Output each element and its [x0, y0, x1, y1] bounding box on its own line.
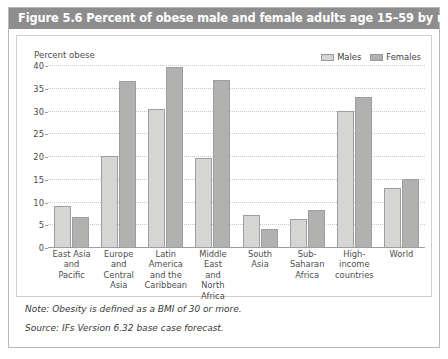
- bar-females: [119, 81, 136, 247]
- bar-males: [101, 156, 118, 247]
- bar-females: [72, 217, 89, 247]
- y-tick-label: 25: [33, 129, 44, 139]
- bar-group: [48, 65, 95, 247]
- y-tick-label: 0: [39, 243, 44, 253]
- y-tick-label: 40: [33, 61, 44, 71]
- x-axis-label: LatinAmericaand theCaribbean: [142, 249, 189, 301]
- legend-item-males: Males: [321, 52, 361, 62]
- bar-group: [284, 65, 331, 247]
- y-tick-label: 20: [33, 152, 44, 162]
- x-axis-label: High-incomecountries: [331, 249, 378, 301]
- bar-females: [261, 229, 278, 247]
- footnotes: Note: Obesity is defined as a BMI of 30 …: [25, 304, 425, 342]
- figure-title-bar: Figure 5.6 Percent of obese male and fem…: [9, 8, 439, 29]
- bar-females: [355, 97, 372, 247]
- bar-females: [308, 210, 325, 247]
- bar-males: [54, 206, 71, 247]
- bar-females: [166, 67, 183, 247]
- figure-source: Source: IFs Version 6.32 base case forec…: [25, 323, 425, 333]
- page-title: Figure 5.6 Percent of obese male and fem…: [18, 11, 448, 25]
- x-axis-label: Middle EastandNorth Africa: [189, 249, 236, 301]
- legend-item-females: Females: [370, 52, 421, 62]
- x-axis-label: EuropeandCentralAsia: [95, 249, 142, 301]
- x-axis-label: Sub-SaharanAfrica: [284, 249, 331, 301]
- legend-label-males: Males: [337, 52, 361, 62]
- bar-males: [195, 158, 212, 247]
- legend-label-females: Females: [386, 52, 421, 62]
- bar-group: [189, 65, 236, 247]
- y-tick-label: 30: [33, 107, 44, 117]
- x-axis-label: SouthAsia: [237, 249, 284, 301]
- y-tick-label: 35: [33, 84, 44, 94]
- bar-group: [95, 65, 142, 247]
- bar-females: [213, 80, 230, 247]
- chart-legend: Males Females: [321, 52, 421, 62]
- bar-females: [402, 179, 419, 247]
- x-axis-label: World: [378, 249, 425, 301]
- bar-males: [337, 111, 354, 248]
- bar-group: [142, 65, 189, 247]
- chart-panel: Percent obese Males Females 051015202530…: [16, 35, 432, 297]
- axis-baseline: 0: [48, 247, 425, 248]
- x-axis-label: East AsiaandPacific: [48, 249, 95, 301]
- figure-note: Note: Obesity is defined as a BMI of 30 …: [25, 304, 425, 314]
- legend-swatch-males-icon: [321, 54, 334, 61]
- bar-group: [331, 65, 378, 247]
- bar-males: [243, 215, 260, 247]
- legend-swatch-females-icon: [370, 54, 383, 61]
- bar-males: [384, 188, 401, 247]
- y-tick-label: 15: [33, 175, 44, 185]
- bar-group: [378, 65, 425, 247]
- plot-area: 0510152025303540: [48, 65, 425, 247]
- y-axis-title: Percent obese: [34, 50, 95, 60]
- figure-container: Figure 5.6 Percent of obese male and fem…: [8, 7, 440, 348]
- bar-groups: [48, 65, 425, 247]
- y-tick-label: 5: [39, 220, 44, 230]
- x-axis-labels: East AsiaandPacificEuropeandCentralAsiaL…: [48, 249, 425, 301]
- bar-males: [290, 219, 307, 247]
- bar-males: [148, 109, 165, 247]
- bar-group: [237, 65, 284, 247]
- y-tick-label: 10: [33, 198, 44, 208]
